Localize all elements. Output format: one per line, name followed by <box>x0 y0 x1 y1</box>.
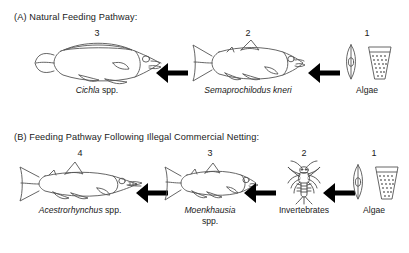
trophic-number: 2 <box>266 148 342 159</box>
species-name-roman: spp. <box>103 205 122 215</box>
panel-b-illegal-netting-pathway: (B) Feeding Pathway Following Illegal Co… <box>0 128 409 248</box>
algae-diatom-icon <box>330 39 404 85</box>
trophic-number: 1 <box>330 28 404 39</box>
algae-diatom-icon <box>342 159 406 205</box>
node-label-acestrorhynchus: Acestrorhynchus spp. <box>12 205 148 216</box>
species-name-italic: Acestrorhynchus <box>39 205 103 215</box>
species-name-roman: Algae <box>356 85 378 95</box>
panel-a-title: (A) Natural Feeding Pathway: <box>14 12 137 22</box>
node-label-algae: Algae <box>342 205 406 216</box>
species-name-italic: Semaprochilodus kneri <box>204 85 291 95</box>
trophic-number: 3 <box>22 28 172 39</box>
acestrorhynchus-fish-icon <box>12 159 148 205</box>
panel-a-chain: 3 <box>0 28 409 120</box>
node-semaprochilodus: 2 <box>178 28 318 96</box>
semaprochilodus-fish-icon <box>178 39 318 85</box>
species-name-roman: Invertebrates <box>279 205 329 215</box>
species-name-roman: Algae <box>363 205 385 215</box>
node-cichla: 3 <box>22 28 172 96</box>
food-chain-figure: (A) Natural Feeding Pathway: 3 <box>0 0 409 253</box>
trophic-number: 2 <box>178 28 318 39</box>
species-name-roman: spp. <box>202 216 218 226</box>
species-name-italic: Cichla <box>76 85 100 95</box>
panel-a-natural-feeding-pathway: (A) Natural Feeding Pathway: 3 <box>0 8 409 120</box>
node-label-cichla: Cichla spp. <box>22 85 172 96</box>
species-name-roman: spp. <box>100 85 119 95</box>
species-name-italic: Moenkhausia <box>184 205 235 215</box>
cichlid-fish-icon <box>22 39 172 85</box>
node-algae: 1 <box>330 28 404 96</box>
node-algae: 1 <box>342 148 406 216</box>
trophic-number: 4 <box>12 148 148 159</box>
trophic-number: 3 <box>158 148 262 159</box>
node-label-moenkhausia: Moenkhausiaspp. <box>158 205 262 226</box>
panel-b-title: (B) Feeding Pathway Following Illegal Co… <box>14 132 259 142</box>
node-acestrorhynchus: 4 <box>12 148 148 216</box>
trophic-number: 1 <box>342 148 406 159</box>
node-label-semaprochilodus: Semaprochilodus kneri <box>178 85 318 96</box>
node-label-algae: Algae <box>330 85 404 96</box>
panel-b-chain: 4 <box>0 148 409 240</box>
node-label-invertebrates: Invertebrates <box>266 205 342 216</box>
